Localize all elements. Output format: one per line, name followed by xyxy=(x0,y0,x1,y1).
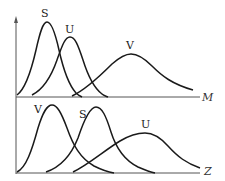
top-curve-v xyxy=(72,54,193,96)
bottom-label-u: U xyxy=(141,119,150,130)
top-label-v: V xyxy=(126,40,134,51)
distribution-diagram xyxy=(0,0,225,181)
z-axis-label: Z xyxy=(204,166,212,177)
bottom-label-v: V xyxy=(34,104,42,115)
bottom-label-s: S xyxy=(79,109,87,120)
bottom-curve-v xyxy=(17,105,114,173)
axis-arrow-icon xyxy=(14,16,18,23)
top-label-u: U xyxy=(65,24,74,35)
top-curve-u xyxy=(32,37,108,97)
m-axis-label: M xyxy=(202,92,213,103)
top-label-s: S xyxy=(41,8,49,19)
